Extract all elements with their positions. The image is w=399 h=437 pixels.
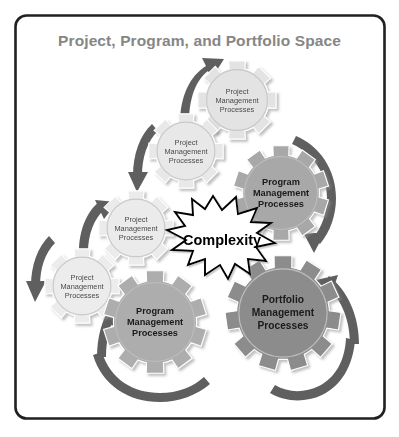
gear-program-bottom: ProgramManagementProcesses (104, 271, 207, 374)
gear-label-line: Processes (132, 328, 178, 338)
gear-label-line: Project (124, 215, 147, 224)
burst-label: Complexity (183, 232, 261, 248)
diagram-canvas: Project, Program, and Portfolio Space (0, 0, 399, 437)
diagram-figure: Project, Program, and Portfolio Space (0, 0, 399, 437)
gear-label-line: Processes (119, 233, 154, 242)
gear-label-line: Project (174, 138, 197, 147)
gear-label-line: Management (253, 188, 309, 198)
gear-label-line: Program (262, 177, 300, 187)
gear-label-line: Management (252, 307, 315, 318)
gear-label-line: Processes (65, 291, 100, 300)
gear-label-line: Processes (220, 105, 255, 114)
gear-project-upper-left: ProjectManagementProcesses (149, 114, 223, 188)
gear-project-mid-left: ProjectManagementProcesses (99, 191, 173, 265)
gear-label-line: Management (114, 224, 157, 233)
gear-label-line: Management (215, 96, 258, 105)
gear-label-line: Management (164, 147, 207, 156)
gear-label-line: Project (225, 87, 248, 96)
gear-label-line: Portfolio (262, 294, 304, 305)
gear-label-line: Processes (169, 156, 204, 165)
gear-label-line: Project (70, 273, 93, 282)
gear-label-line: Processes (258, 199, 304, 209)
gear-label-line: Management (60, 282, 103, 291)
page-title: Project, Program, and Portfolio Space (58, 32, 341, 49)
gear-label-line: Processes (258, 320, 309, 331)
gear-label-line: Management (127, 317, 183, 327)
gear-label-line: Program (136, 306, 174, 316)
